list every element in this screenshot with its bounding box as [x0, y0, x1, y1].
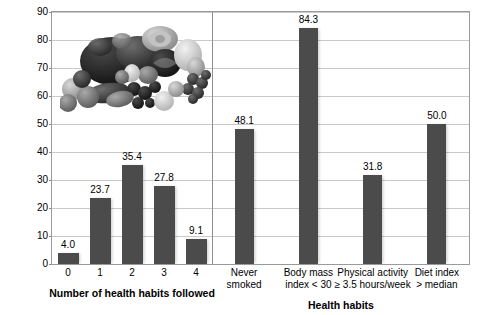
x-axis-tick-label: Physical activity≥ 3.5 hours/week: [335, 267, 411, 290]
bar-value-label: 84.3: [288, 15, 328, 25]
bar-value-label: 35.4: [112, 152, 152, 162]
gridline: [52, 12, 469, 13]
y-axis-tick-label: 60: [26, 91, 48, 101]
bar: [122, 165, 143, 264]
bar-value-label: 4.0: [51, 240, 88, 250]
x-axis-tick-label-line1: 1: [97, 267, 103, 278]
bar-value-label: 23.7: [80, 185, 120, 195]
y-axis-ticks: 0102030405060708090: [26, 0, 48, 315]
bar: [427, 124, 446, 264]
x-axis-tick-label-line1: Never: [231, 267, 258, 278]
x-axis-tick-label-line1: 0: [65, 267, 71, 278]
y-axis-tick-label: 80: [26, 35, 48, 45]
x-axis-tick-label-line2: > median: [415, 279, 459, 291]
x-axis-tick-label-line1: Body mass: [284, 267, 333, 278]
bar: [299, 28, 318, 264]
gridline: [52, 208, 469, 209]
y-axis-tick-label: 70: [26, 63, 48, 73]
y-axis-tick-label: 90: [26, 7, 48, 17]
x-axis-tick-label-line1: 2: [129, 267, 135, 278]
y-axis-tick-label: 10: [26, 231, 48, 241]
bar: [90, 198, 111, 264]
x-axis-title-right: Health habits: [308, 299, 374, 311]
bar: [235, 129, 254, 264]
x-axis-tick-label: 0: [65, 267, 71, 279]
x-axis-tick-label-line1: 3: [161, 267, 167, 278]
x-axis-tick-label: 2: [129, 267, 135, 279]
y-axis-tick-label: 50: [26, 119, 48, 129]
x-axis-tick-label: Neversmoked: [227, 267, 262, 290]
x-axis-tick-label-line1: Physical activity: [337, 267, 408, 278]
x-axis-title-left-line1: Number of health: [49, 287, 135, 299]
x-axis-tick-label: Diet index> median: [415, 267, 459, 290]
x-axis-tick-label-line2: ≥ 3.5 hours/week: [335, 279, 411, 291]
bar-value-label: 9.1: [176, 226, 216, 236]
gridline: [52, 180, 469, 181]
bar-value-label: 31.8: [353, 162, 393, 172]
chart-figure: Kovalchuk/Shutterstock Percentage of par…: [0, 0, 479, 315]
y-axis-tick-label: 40: [26, 147, 48, 157]
x-axis-tick-label-line1: 4: [193, 267, 199, 278]
x-axis-title-left-line2: habits followed: [138, 287, 214, 299]
x-axis-tick-label-line1: Diet index: [415, 267, 459, 278]
x-axis-title-right-line1: Health habits: [308, 299, 374, 311]
y-axis-tick-label: 0: [26, 259, 48, 269]
bar: [186, 239, 207, 264]
x-axis-tick-label: Body massindex < 30: [284, 267, 333, 290]
x-axis-tick-label-line2: smoked: [227, 279, 262, 291]
bar-value-label: 27.8: [144, 173, 184, 183]
y-axis-tick-label: 20: [26, 203, 48, 213]
plot-area: 4.023.735.427.89.148.184.331.850.0: [51, 11, 470, 265]
gridline: [52, 236, 469, 237]
gridline: [52, 40, 469, 41]
x-axis-tick-label-line2: index < 30: [284, 279, 333, 291]
x-axis-tick-label: 3: [161, 267, 167, 279]
bar: [154, 186, 175, 264]
x-axis-title-left: Number of health habits followed: [49, 287, 215, 299]
gridline: [52, 96, 469, 97]
bar: [363, 175, 382, 264]
x-axis-tick-label: 1: [97, 267, 103, 279]
bar: [58, 253, 79, 264]
fruits-vegetables-photo: [60, 17, 215, 121]
x-axis-tick-label: 4: [193, 267, 199, 279]
bar-value-label: 48.1: [224, 116, 264, 126]
y-axis-tick-label: 30: [26, 175, 48, 185]
bar-value-label: 50.0: [417, 111, 457, 121]
gridline: [52, 68, 469, 69]
